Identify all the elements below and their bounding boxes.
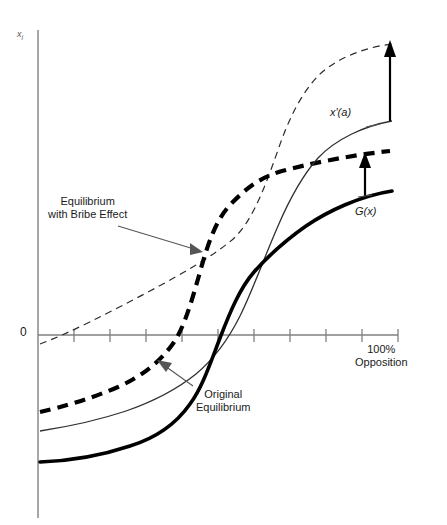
annotation-original-equilibrium: Original Equilibrium — [196, 388, 250, 415]
lower-shift-arrow — [359, 152, 371, 196]
curve-G-of-x — [40, 191, 392, 462]
axis-origin-label: 0 — [20, 325, 27, 340]
annotation-original-line2: Equilibrium — [196, 401, 250, 413]
original-equilibrium-leader — [157, 360, 193, 386]
upper-shift-arrow — [384, 40, 396, 121]
curve-shifted-upper-dashed — [40, 44, 392, 344]
curve-x-prime-of-a — [40, 121, 392, 431]
x-axis-end-label-line1: 100% — [367, 343, 395, 355]
curve-equilibrium-with-bribe-effect — [40, 151, 390, 412]
annotation-original-line1: Original — [204, 388, 242, 400]
bribe-equilibrium-leader — [118, 226, 203, 255]
x-axis-end-label-line2: Opposition — [355, 356, 408, 368]
xa-label-leader — [366, 124, 380, 127]
figure-root: xi 0 100% Opposition x'(a) G(x) Equilibr… — [0, 0, 447, 525]
x-axis-end-label: 100% Opposition — [355, 343, 408, 370]
annotation-equilibrium-with-bribe-effect: Equilibrium with Bribe Effect — [48, 195, 127, 222]
y-axis-label: xi — [17, 29, 23, 42]
annotation-bribe-line1: Equilibrium — [60, 195, 114, 207]
curve-label-x-prime-a: x'(a) — [330, 106, 351, 119]
annotation-bribe-line2: with Bribe Effect — [48, 208, 127, 220]
axis-group — [38, 30, 398, 518]
chart-canvas — [0, 0, 447, 525]
curve-label-g-of-x: G(x) — [355, 205, 376, 218]
